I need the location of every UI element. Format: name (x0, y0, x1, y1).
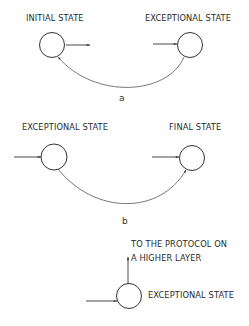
label-to-protocol-line1: TO THE PROTOCOL ON (131, 239, 227, 249)
state-circle-initial (40, 33, 65, 58)
label-initial-state: INITIAL STATE (26, 13, 84, 23)
state-circle-final (180, 146, 205, 171)
diagram-b (14, 144, 205, 204)
label-exceptional-state-c: EXCEPTIONAL STATE (148, 290, 234, 300)
diagram-c (86, 257, 142, 309)
label-exceptional-state-a: EXCEPTIONAL STATE (145, 13, 231, 23)
caption-a: a (119, 93, 125, 103)
label-to-protocol-line2: A HIGHER LAYER (131, 253, 201, 263)
label-final-state: FINAL STATE (169, 122, 221, 132)
diagram-a (40, 33, 203, 88)
caption-b: b (122, 216, 128, 226)
state-circle-exceptional-c (117, 284, 142, 309)
state-circle-exceptional-a (178, 33, 203, 58)
arc-exceptional-to-initial (58, 57, 184, 87)
state-circle-exceptional-b (41, 144, 67, 170)
state-diagrams-canvas (0, 0, 249, 326)
arc-exceptional-to-final (58, 169, 186, 204)
label-exceptional-state-b: EXCEPTIONAL STATE (22, 122, 108, 132)
